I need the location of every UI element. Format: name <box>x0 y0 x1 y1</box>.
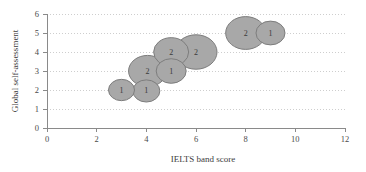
bubble-chart: 024681012 0123456 22221111 IELTS band sc… <box>0 0 366 172</box>
bubble-series: 22221111 <box>109 17 286 102</box>
bubble-marker <box>156 59 186 84</box>
bubble-point: 1 <box>256 21 285 45</box>
x-axis-ticks: 024681012 <box>45 128 349 144</box>
y-tick-label-5: 5 <box>35 28 39 38</box>
bubble-marker <box>109 79 135 100</box>
x-tick-label-0: 0 <box>45 134 49 144</box>
x-tick-label-6: 6 <box>194 134 198 144</box>
y-tick-label-4: 4 <box>35 47 40 57</box>
bubble-marker <box>256 21 285 45</box>
x-tick-label-12: 12 <box>341 134 350 144</box>
y-tick-label-0: 0 <box>35 123 39 133</box>
gridlines <box>47 14 345 128</box>
chart-canvas: 024681012 0123456 22221111 IELTS band sc… <box>0 0 366 172</box>
bubble-point: 1 <box>133 80 160 102</box>
y-tick-label-2: 2 <box>35 85 39 95</box>
x-tick-label-8: 8 <box>244 134 248 144</box>
y-tick-label-6: 6 <box>35 9 39 19</box>
bubble-point: 1 <box>156 59 186 84</box>
bubble-marker <box>133 80 160 102</box>
x-tick-label-2: 2 <box>95 134 99 144</box>
x-tick-label-10: 10 <box>291 134 300 144</box>
bubble-point: 1 <box>109 79 135 100</box>
y-axis-ticks: 0123456 <box>35 9 47 133</box>
y-tick-label-1: 1 <box>35 104 39 114</box>
x-tick-label-4: 4 <box>144 134 149 144</box>
y-axis-title: Global self-assessment <box>10 29 20 112</box>
y-tick-label-3: 3 <box>35 66 39 76</box>
x-axis-title: IELTS band score <box>171 154 236 164</box>
axes <box>47 14 345 128</box>
